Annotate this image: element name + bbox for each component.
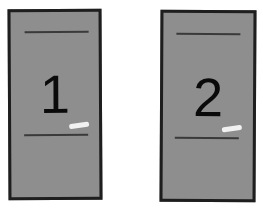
bottom-line: [24, 134, 88, 136]
card-2: 2: [159, 10, 256, 203]
chalk-mark: [222, 125, 242, 133]
card-number: 1: [11, 67, 99, 121]
chalk-mark: [69, 121, 90, 129]
top-line: [25, 31, 89, 33]
card-number: 2: [163, 70, 253, 124]
top-line: [176, 33, 240, 35]
bottom-line: [175, 137, 239, 139]
card-1: 1: [8, 9, 103, 200]
